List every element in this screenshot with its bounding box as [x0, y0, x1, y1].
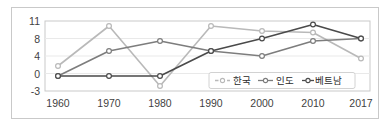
- x-axis-tick-labels: 1960 1970 1980 1990 2000 2010 2017: [46, 97, 373, 109]
- legend-label-vietnam: 베트남: [315, 75, 342, 86]
- series-vietnam: [56, 22, 364, 78]
- data-point-vietnam-1960[interactable]: [56, 74, 61, 79]
- y-tick-label-11: 11: [29, 15, 40, 27]
- y-tick-label-neg3: -3: [31, 85, 40, 97]
- data-point-korea-1990[interactable]: [209, 24, 214, 29]
- x-tick-label-1970: 1970: [97, 97, 121, 109]
- line-chart: 11 8 4 0 -3: [12, 8, 380, 120]
- data-point-india-1980[interactable]: [158, 39, 163, 44]
- legend-label-india: 인도: [276, 75, 294, 86]
- data-point-vietnam-1970[interactable]: [107, 74, 112, 79]
- legend-swatch-india-marker: [263, 78, 267, 82]
- data-point-india-1970[interactable]: [107, 49, 112, 54]
- chart-figure-frame: 11 8 4 0 -3: [11, 7, 379, 119]
- data-point-korea-2000[interactable]: [260, 29, 265, 34]
- y-tick-label-4: 4: [34, 50, 40, 62]
- data-point-korea-1970[interactable]: [107, 24, 112, 29]
- data-point-india-2010[interactable]: [311, 39, 316, 44]
- data-point-vietnam-2000[interactable]: [260, 36, 265, 41]
- legend-swatch-vietnam-marker: [306, 78, 310, 82]
- legend-label-korea: 한국: [233, 75, 251, 86]
- x-tick-label-2000: 2000: [250, 97, 274, 109]
- data-point-vietnam-2010[interactable]: [311, 22, 316, 27]
- chart-plot-wrapper: 11 8 4 0 -3: [12, 8, 380, 120]
- x-tick-label-1960: 1960: [46, 97, 70, 109]
- data-point-vietnam-1990[interactable]: [209, 49, 214, 54]
- legend-swatch-korea-marker: [220, 78, 224, 82]
- data-point-korea-1960[interactable]: [56, 64, 61, 69]
- gridlines: [45, 39, 370, 74]
- x-tick-label-2010: 2010: [301, 97, 325, 109]
- x-tick-label-2017: 2017: [349, 97, 373, 109]
- series-line-india: [58, 39, 361, 77]
- data-point-vietnam-1980[interactable]: [158, 74, 163, 79]
- y-axis-tick-labels: 11 8 4 0 -3: [29, 15, 40, 97]
- data-point-korea-2017[interactable]: [359, 56, 364, 61]
- chart-legend: 한국 인도 베트남: [209, 73, 355, 89]
- data-point-india-2000[interactable]: [260, 54, 265, 59]
- y-tick-label-0: 0: [34, 68, 40, 80]
- y-tick-label-8: 8: [34, 33, 40, 45]
- x-tick-label-1980: 1980: [148, 97, 172, 109]
- x-tick-label-1990: 1990: [199, 97, 223, 109]
- data-point-korea-1980[interactable]: [158, 84, 163, 89]
- data-point-vietnam-2017[interactable]: [359, 36, 364, 41]
- data-point-korea-2010[interactable]: [311, 30, 316, 35]
